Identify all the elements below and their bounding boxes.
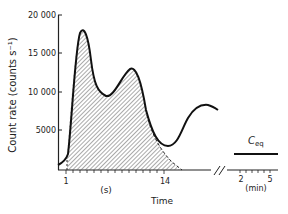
x-ticks (66, 170, 164, 174)
x-unit-seconds: (s) (100, 185, 112, 195)
axis-break (214, 166, 225, 175)
ceq-label: Ceq (248, 135, 264, 148)
chart: 20 000 15 000 10 000 5000 Count rate (co… (0, 0, 288, 214)
x-tick-inset-2: 2 (238, 175, 243, 184)
first-pass-area (67, 30, 180, 170)
y-tick-10000: 10 000 (28, 88, 56, 97)
x-tick-inset-5: 5 (267, 175, 272, 184)
y-tick-15000: 15 000 (28, 49, 56, 58)
y-tick-5000: 5000 (36, 126, 56, 135)
y-axis-label: Count rate (counts s⁻¹) (7, 37, 18, 152)
x-unit-minutes: (min) (245, 184, 266, 193)
x-axis-label: Time (150, 196, 173, 206)
x-tick-1: 1 (63, 177, 68, 186)
x-tick-14: 14 (160, 177, 170, 186)
y-tick-20000: 20 000 (28, 11, 56, 20)
